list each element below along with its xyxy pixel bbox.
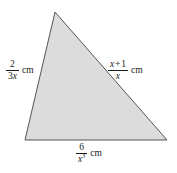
left-unit: cm <box>22 66 34 76</box>
right-numerator-variable: x <box>110 59 114 69</box>
right-fraction: x + 1 x <box>108 60 128 82</box>
bottom-denominator: x3 <box>76 154 87 164</box>
right-side-length-label: x + 1 x cm <box>108 60 143 82</box>
triangle-diagram: 2 3x cm x + 1 x cm 6 x3 cm <box>0 0 177 173</box>
base-length-label: 6 x3 cm <box>76 143 102 165</box>
right-numerator-operator: + <box>115 59 120 69</box>
left-numerator: 2 <box>8 60 17 70</box>
bottom-unit: cm <box>90 149 102 159</box>
right-unit: cm <box>131 66 143 76</box>
right-numerator: x + 1 <box>108 60 128 70</box>
left-side-length-label: 2 3x cm <box>6 60 34 82</box>
left-denominator-variable: x <box>13 71 17 81</box>
right-denominator: x <box>114 71 122 81</box>
left-denominator: 3x <box>6 71 19 81</box>
left-fraction: 2 3x <box>6 60 19 82</box>
bottom-denominator-exponent: 3 <box>82 153 85 159</box>
triangle-polygon <box>25 12 167 140</box>
right-numerator-constant: 1 <box>121 59 126 69</box>
bottom-fraction: 6 x3 <box>76 143 87 165</box>
